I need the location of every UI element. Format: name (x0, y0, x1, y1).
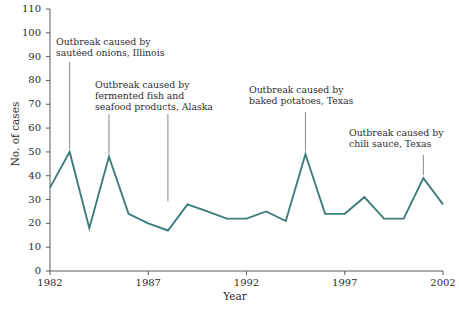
x-axis-tick-label: 1987 (128, 277, 168, 288)
y-axis-tick-label: 40 (15, 170, 41, 181)
data-series-line (50, 152, 443, 231)
chart-figure: 0102030405060708090100110 19821987199219… (0, 0, 459, 311)
y-axis-tick-label: 20 (15, 217, 41, 228)
y-axis-tick-label: 110 (15, 3, 41, 14)
annotation-chili-sauce: Outbreak caused by chili sauce, Texas (349, 127, 443, 149)
y-axis-tick-label: 10 (15, 241, 41, 252)
x-axis-tick-label: 1982 (30, 277, 70, 288)
x-axis-ticks (50, 271, 443, 275)
y-axis-tick-label: 80 (15, 74, 41, 85)
y-axis-tick-label: 90 (15, 51, 41, 62)
y-axis-ticks (46, 9, 50, 271)
x-axis-tick-label: 2002 (423, 277, 459, 288)
annotation-sauteed-onions: Outbreak caused by sautéed onions, Illin… (56, 36, 164, 58)
x-axis-tick-label: 1997 (325, 277, 365, 288)
y-axis-tick-label: 100 (15, 27, 41, 38)
annotation-baked-potatoes: Outbreak caused by baked potatoes, Texas (249, 84, 353, 106)
y-axis-tick-label: 0 (15, 265, 41, 276)
x-axis-title: Year (205, 290, 265, 302)
annotation-fermented-fish: Outbreak caused by fermented fish and se… (95, 79, 213, 113)
x-axis-tick-label: 1992 (227, 277, 267, 288)
y-axis-title: No. of cases (9, 99, 21, 169)
y-axis-tick-label: 30 (15, 194, 41, 205)
